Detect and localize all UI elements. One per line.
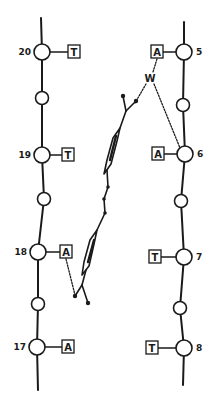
left-sugar-circle bbox=[36, 92, 49, 105]
left-phosphate-19 bbox=[34, 147, 50, 163]
nucleotide-number: 19 bbox=[18, 150, 31, 160]
right-sugar-circle bbox=[174, 302, 187, 315]
right-sugar-circle bbox=[175, 195, 188, 208]
right-phosphate-7 bbox=[176, 249, 192, 265]
right-sugar-circle bbox=[177, 99, 190, 112]
base-letter: A bbox=[154, 149, 162, 160]
base-letter: T bbox=[149, 343, 156, 354]
nucleotide-number: 6 bbox=[197, 149, 203, 159]
base-letter: A bbox=[153, 47, 161, 58]
base-letter: T bbox=[65, 150, 72, 161]
left-sugar-circle bbox=[32, 298, 45, 311]
right-phosphate-5 bbox=[176, 44, 192, 60]
right-phosphate-8 bbox=[176, 340, 192, 356]
nucleotide-number: 7 bbox=[196, 252, 202, 262]
nucleotide-number: 8 bbox=[196, 343, 202, 353]
right-phosphate-6 bbox=[177, 146, 193, 162]
dna-ligand-diagram: T T A A A A T T 20 19 18 17 5 6 7 8 W bbox=[0, 0, 221, 399]
left-phosphate-20 bbox=[34, 44, 50, 60]
nucleotide-number: 5 bbox=[196, 47, 202, 57]
left-phosphate-18 bbox=[30, 244, 46, 260]
left-phosphate-17 bbox=[29, 339, 45, 355]
nucleotide-number: 17 bbox=[13, 342, 26, 352]
left-sugar-circle bbox=[38, 193, 51, 206]
nucleotide-number: 18 bbox=[14, 247, 27, 257]
base-letter: T bbox=[152, 252, 159, 263]
base-letter: A bbox=[62, 247, 70, 258]
water-label: W bbox=[144, 73, 155, 84]
base-letter: A bbox=[64, 342, 72, 353]
base-letter: T bbox=[71, 47, 78, 58]
nucleotide-number: 20 bbox=[18, 47, 31, 57]
